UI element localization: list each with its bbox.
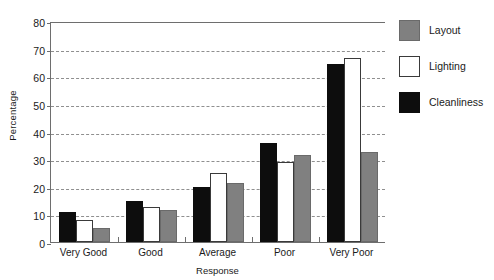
y-tick-label: 80 (33, 18, 45, 29)
bar-group (185, 23, 252, 242)
y-tick-label: 60 (33, 73, 45, 84)
x-tick-label: Very Poor (330, 247, 374, 258)
y-tick-label: 0 (39, 239, 45, 250)
y-tick-label: 20 (33, 184, 45, 195)
bar-lighting[interactable] (344, 58, 361, 242)
y-tick-label: 10 (33, 211, 45, 222)
x-tick-mark (252, 237, 253, 243)
chart-legend: LayoutLightingCleanliness (399, 16, 483, 124)
bar-group (252, 23, 319, 242)
legend-label: Lighting (429, 60, 466, 72)
y-tick-label: 50 (33, 101, 45, 112)
bar-lighting[interactable] (210, 173, 227, 242)
bar-cleanliness[interactable] (59, 212, 76, 242)
bar-lighting[interactable] (143, 207, 160, 242)
y-tick-label: 70 (33, 45, 45, 56)
legend-label: Cleanliness (429, 96, 483, 108)
bar-layout[interactable] (294, 155, 311, 242)
x-tick-label: Average (199, 247, 236, 258)
legend-item-cleanliness[interactable]: Cleanliness (399, 88, 483, 116)
x-tick-label: Poor (274, 247, 295, 258)
bar-group (51, 23, 118, 242)
y-axis-title: Percentage (7, 71, 18, 161)
x-tick-label: Good (138, 247, 162, 258)
bar-lighting[interactable] (277, 162, 294, 242)
x-axis-title: Response (50, 265, 385, 276)
bar-layout[interactable] (361, 152, 378, 242)
x-tick-label: Very Good (60, 247, 107, 258)
y-tick-mark (47, 244, 51, 245)
bar-group (319, 23, 386, 242)
plot-area: 01020304050607080 (50, 22, 385, 243)
bar-cleanliness[interactable] (327, 64, 344, 242)
bar-cleanliness[interactable] (260, 143, 277, 242)
legend-swatch-cleanliness (399, 92, 420, 113)
bar-groups (51, 23, 385, 242)
bar-chart: Percentage 01020304050607080 Very GoodGo… (0, 0, 494, 280)
y-tick-label: 40 (33, 128, 45, 139)
legend-swatch-lighting (399, 56, 420, 77)
y-tick-label: 30 (33, 156, 45, 167)
bar-layout[interactable] (227, 183, 244, 242)
legend-item-lighting[interactable]: Lighting (399, 52, 483, 80)
legend-item-layout[interactable]: Layout (399, 16, 483, 44)
bar-lighting[interactable] (76, 220, 93, 242)
bar-group (118, 23, 185, 242)
bar-cleanliness[interactable] (126, 201, 143, 242)
bar-layout[interactable] (93, 228, 110, 242)
x-tick-mark (319, 237, 320, 243)
bar-cleanliness[interactable] (193, 187, 210, 242)
x-tick-mark (185, 237, 186, 243)
legend-swatch-layout (399, 20, 420, 41)
legend-label: Layout (429, 24, 461, 36)
bar-layout[interactable] (160, 210, 177, 242)
x-tick-mark (118, 237, 119, 243)
